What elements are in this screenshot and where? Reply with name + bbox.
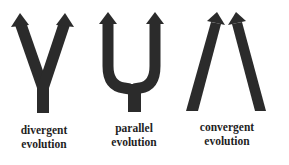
convergent-label-line2: evolution [182, 134, 272, 148]
divergent-label-line1: divergent [0, 123, 89, 137]
convergent-label-line1: convergent [182, 120, 272, 134]
parallel-label-line1: parallel [89, 121, 179, 135]
divergent-arrow-icon [11, 13, 74, 113]
parallel-label-line2: evolution [89, 135, 179, 149]
parallel-arrow-icon [99, 12, 164, 112]
divergent-label-line2: evolution [0, 137, 89, 151]
convergent-label: convergent evolution [182, 120, 272, 148]
parallel-label: parallel evolution [89, 121, 179, 149]
convergent-arrow-icon [186, 12, 266, 111]
divergent-label: divergent evolution [0, 123, 89, 151]
